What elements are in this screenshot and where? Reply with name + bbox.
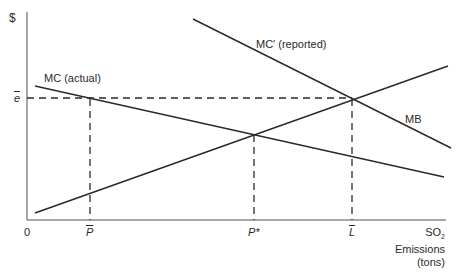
origin-label: 0 bbox=[24, 226, 30, 238]
mc-actual-label: MC (actual) bbox=[44, 72, 101, 84]
l-bar-label: L bbox=[349, 226, 355, 238]
y-axis-label: $ bbox=[9, 12, 16, 24]
diagram-canvas bbox=[0, 0, 459, 272]
mb-label: MB bbox=[405, 113, 422, 125]
p-bar-label: P bbox=[86, 226, 93, 238]
mc-reported-label: MC′ (reported) bbox=[256, 38, 327, 50]
p-star-label: P* bbox=[248, 226, 260, 238]
x-axis-label-line3: (tons) bbox=[395, 256, 445, 269]
mb-line bbox=[35, 66, 448, 213]
e-bar-label: e bbox=[14, 92, 20, 104]
x-axis-label-subscript: 2 bbox=[441, 233, 445, 240]
mc-actual-line bbox=[35, 86, 444, 177]
x-axis-label-line2: Emissions bbox=[395, 243, 445, 256]
x-axis-label-line1: SO bbox=[425, 226, 441, 238]
x-axis-label: SO2 Emissions (tons) bbox=[395, 226, 445, 269]
